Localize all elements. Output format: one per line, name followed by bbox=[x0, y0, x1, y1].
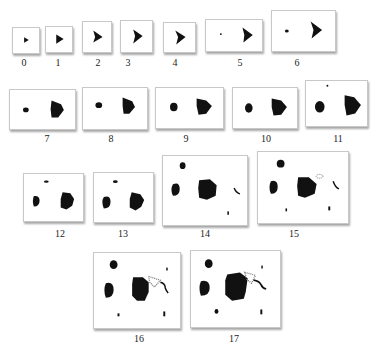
frame-label: 12 bbox=[45, 228, 75, 239]
frame-panel-4 bbox=[163, 22, 196, 53]
frame-panel-17 bbox=[190, 250, 281, 328]
frame-panel-1 bbox=[45, 26, 73, 53]
frame-panel-7 bbox=[9, 89, 76, 130]
frame-panel-0 bbox=[12, 27, 40, 54]
blob-image bbox=[121, 21, 152, 52]
blob-image bbox=[83, 22, 111, 52]
frame-label: 0 bbox=[9, 57, 39, 68]
frame-label: 1 bbox=[43, 57, 73, 68]
frame-label: 3 bbox=[113, 57, 143, 68]
blob-image bbox=[258, 152, 348, 223]
frame-label: 16 bbox=[124, 333, 154, 344]
frame-label: 2 bbox=[83, 57, 113, 68]
frame-panel-15 bbox=[257, 151, 349, 224]
frame-panel-6 bbox=[271, 10, 336, 52]
blob-image bbox=[24, 174, 83, 221]
frame-label: 10 bbox=[251, 133, 281, 144]
frame-panel-12 bbox=[23, 173, 84, 222]
frame-panel-10 bbox=[232, 87, 298, 129]
frame-panel-5 bbox=[205, 19, 263, 52]
blob-image bbox=[10, 90, 75, 129]
frame-panel-11 bbox=[305, 80, 368, 127]
frame-label: 6 bbox=[282, 57, 312, 68]
blob-image bbox=[13, 28, 39, 53]
blob-image bbox=[206, 20, 262, 51]
blob-image bbox=[94, 173, 153, 222]
blob-image bbox=[83, 88, 147, 129]
frame-label: 17 bbox=[219, 333, 249, 344]
frame-label: 15 bbox=[279, 228, 309, 239]
frame-label: 7 bbox=[32, 133, 62, 144]
blob-image bbox=[233, 88, 297, 128]
frame-panel-2 bbox=[82, 21, 112, 53]
frame-label: 5 bbox=[225, 57, 255, 68]
frame-panel-14 bbox=[162, 155, 248, 226]
blob-image bbox=[272, 11, 335, 51]
blob-image bbox=[191, 251, 280, 327]
frame-panel-13 bbox=[93, 172, 154, 223]
frame-label: 14 bbox=[190, 228, 220, 239]
frame-panel-8 bbox=[82, 87, 148, 130]
frame-panel-16 bbox=[93, 252, 181, 329]
frame-panel-3 bbox=[120, 20, 153, 53]
blob-image bbox=[164, 23, 195, 52]
blob-image bbox=[94, 253, 180, 328]
blob-image bbox=[156, 88, 223, 128]
frame-label: 4 bbox=[160, 57, 190, 68]
frame-label: 9 bbox=[171, 133, 201, 144]
frame-label: 11 bbox=[323, 133, 353, 144]
frame-panel-9 bbox=[155, 87, 224, 129]
frame-label: 13 bbox=[108, 228, 138, 239]
blob-image bbox=[163, 156, 247, 225]
blob-image bbox=[46, 27, 72, 52]
frame-label: 8 bbox=[96, 133, 126, 144]
blob-image bbox=[306, 81, 367, 126]
